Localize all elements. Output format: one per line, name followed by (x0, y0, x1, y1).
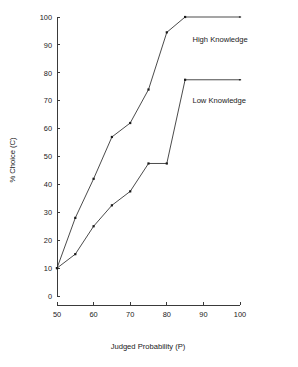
series-1: High Knowledge (56, 16, 248, 269)
line-chart: 0102030405060708090100 5060708090100 Hig… (0, 0, 298, 367)
x-tick-label: 100 (234, 310, 246, 319)
x-tick-label: 70 (126, 310, 134, 319)
series-label: High Knowledge (192, 35, 247, 44)
y-tick-label: 20 (44, 236, 52, 245)
data-point (184, 79, 186, 81)
y-tick-label: 80 (44, 69, 52, 78)
x-tick-label: 90 (199, 310, 207, 319)
y-tick-label: 50 (44, 152, 52, 161)
data-point (74, 253, 76, 255)
y-axis-title: % Choice (C) (8, 137, 17, 183)
data-point (129, 190, 131, 192)
y-tick-label: 0 (48, 292, 52, 301)
data-point (147, 162, 149, 164)
data-point (184, 16, 186, 18)
data-point (111, 136, 113, 138)
y-tick-label: 90 (44, 41, 52, 50)
x-tick-label: 60 (89, 310, 97, 319)
data-point (166, 162, 168, 164)
x-tick-label: 50 (53, 310, 61, 319)
data-point (129, 122, 131, 124)
data-point (111, 204, 113, 206)
y-tick-label: 10 (44, 264, 52, 273)
y-tick-label: 40 (44, 180, 52, 189)
y-tick-label: 100 (40, 13, 52, 22)
chart-figure: 0102030405060708090100 5060708090100 Hig… (0, 0, 298, 367)
data-point (239, 79, 241, 80)
series-line (57, 80, 240, 268)
data-point (166, 31, 168, 33)
data-point (74, 217, 76, 219)
x-axis-title: Judged Probability (P) (111, 342, 186, 351)
series-group: High KnowledgeLow Knowledge (56, 16, 248, 269)
y-tick-label: 60 (44, 124, 52, 133)
data-point (56, 267, 58, 269)
x-tick-label: 80 (163, 310, 171, 319)
series-line (57, 17, 240, 268)
data-point (93, 178, 95, 180)
data-point (147, 88, 149, 90)
data-point (93, 225, 95, 227)
data-point (239, 16, 241, 17)
y-tick-label: 30 (44, 208, 52, 217)
series-2: Low Knowledge (56, 79, 246, 270)
series-label: Low Knowledge (192, 96, 246, 105)
y-tick-label: 70 (44, 96, 52, 105)
